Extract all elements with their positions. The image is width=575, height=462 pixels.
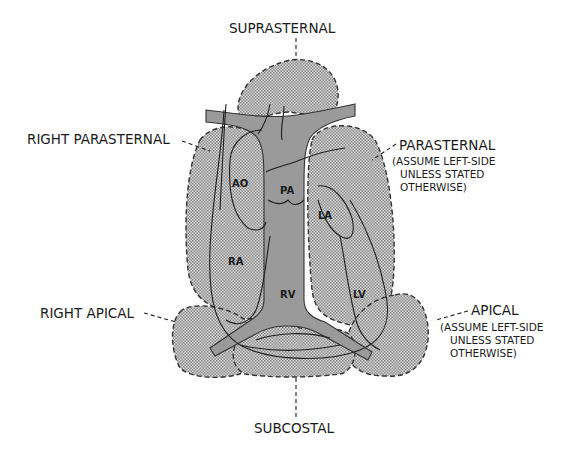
label-right-parasternal: RIGHT PARASTERNAL xyxy=(27,131,170,147)
note-apical-2: UNLESS STATED xyxy=(450,334,534,346)
note-apical-3: OTHERWISE) xyxy=(450,347,517,359)
chamber-label-pa: PA xyxy=(280,185,294,196)
label-subcostal: SUBCOSTAL xyxy=(254,420,335,436)
echo-windows-diagram: AO PA LA RA RV LV SUPRASTERNAL RIGHT PAR… xyxy=(0,0,575,462)
leader-apical xyxy=(436,311,468,320)
right-parasternal-window xyxy=(186,127,271,319)
note-apical-1: (ASSUME LEFT-SIDE xyxy=(440,321,543,333)
label-apical: APICAL xyxy=(471,302,519,318)
label-right-apical: RIGHT APICAL xyxy=(40,305,135,321)
chamber-label-lv: LV xyxy=(353,289,366,300)
chamber-label-ao: AO xyxy=(232,178,248,189)
chamber-label-rv: RV xyxy=(280,289,296,300)
label-parasternal: PARASTERNAL xyxy=(399,137,496,153)
chamber-label-la: LA xyxy=(318,210,332,221)
note-parasternal-3: OTHERWISE) xyxy=(400,181,467,193)
note-parasternal-2: UNLESS STATED xyxy=(400,168,484,180)
label-suprasternal: SUPRASTERNAL xyxy=(229,20,336,36)
chamber-label-ra: RA xyxy=(228,256,244,267)
leader-right-apical xyxy=(144,313,176,322)
note-parasternal-1: (ASSUME LEFT-SIDE xyxy=(392,155,495,167)
